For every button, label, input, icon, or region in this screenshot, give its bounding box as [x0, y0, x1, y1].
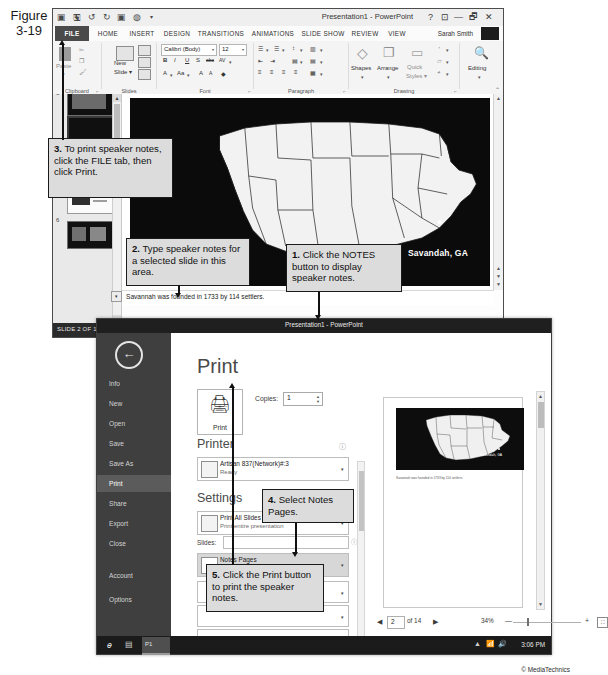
line-spacing-icon[interactable]: ↕	[292, 45, 295, 51]
start-slideshow-icon[interactable]: ▣	[116, 12, 127, 23]
show-hidden-icons-icon[interactable]: ▲	[474, 640, 481, 647]
scroll-up-icon[interactable]: ▲	[113, 94, 121, 102]
preview-zoom-slider-handle[interactable]	[527, 618, 529, 626]
italic-icon[interactable]: I	[174, 57, 176, 63]
thumbnail-slide-6[interactable]	[67, 221, 113, 249]
layout-icon[interactable]	[138, 45, 151, 56]
copies-decrement-icon[interactable]: ▼	[316, 399, 320, 404]
nav-item-info[interactable]: Info	[97, 375, 171, 392]
restore-button[interactable]: 🗗	[466, 11, 479, 23]
nav-item-print[interactable]: Print	[97, 475, 171, 492]
scroll-down-icon[interactable]: ▼	[495, 281, 502, 288]
file-explorer-icon[interactable]: ▤	[125, 640, 133, 649]
bullets-icon[interactable]: ☰	[258, 45, 263, 52]
reset-icon[interactable]	[138, 57, 151, 68]
align-text-icon[interactable]: ▤	[310, 57, 316, 64]
format-painter-icon[interactable]: 🖌	[79, 68, 87, 75]
arrange-icon[interactable]: ❐	[383, 46, 395, 59]
change-case-dropdown-icon[interactable]: ▾	[187, 72, 190, 78]
justify-icon[interactable]: ≡	[294, 69, 298, 75]
text-direction-icon[interactable]: ▤	[292, 57, 298, 64]
nav-item-options[interactable]: Options	[97, 591, 171, 608]
account-name[interactable]: Sarah Smith	[438, 26, 473, 41]
font-name-dropdown-icon[interactable]: ▾	[212, 47, 214, 52]
print-button[interactable]: 🖨 Print	[197, 389, 243, 435]
nav-item-new[interactable]: New	[97, 395, 171, 412]
new-slide-icon[interactable]	[116, 46, 134, 61]
scrollbar-thumb[interactable]	[538, 402, 544, 428]
print-preview-pane[interactable]: Savandah, GA Savannah was founded in 173…	[377, 391, 529, 610]
preview-scrollbar[interactable]: ▲ ▼	[536, 391, 545, 610]
next-page-button[interactable]: ▶	[433, 618, 438, 626]
tab-review[interactable]: REVIEW	[349, 26, 381, 41]
internet-explorer-icon[interactable]: 𝑒	[107, 640, 112, 651]
touch-mode-icon[interactable]: ◍	[131, 12, 142, 23]
undo-icon[interactable]: ↺	[86, 12, 97, 23]
align-center-icon[interactable]: ≡	[270, 69, 274, 75]
minimize-button[interactable]: —	[452, 11, 465, 23]
convert-smartart-icon[interactable]: ▦	[310, 69, 316, 76]
print-layout-dropdown-icon[interactable]: ▾	[341, 562, 344, 568]
strikethrough-icon[interactable]: abc	[206, 57, 214, 63]
increase-indent-icon[interactable]: ⇥	[270, 57, 275, 64]
slides-input[interactable]	[223, 536, 349, 549]
orientation-dropdown-icon[interactable]: ▾	[341, 614, 344, 620]
preview-zoom-slider[interactable]	[513, 622, 581, 623]
nav-item-account[interactable]: Account	[97, 567, 171, 584]
scroll-up-icon[interactable]: ▲	[537, 393, 544, 400]
font-size-box[interactable]: 12 ▾	[219, 44, 247, 56]
tab-insert[interactable]: INSERT	[127, 26, 157, 41]
customize-qat-icon[interactable]: ▾	[146, 12, 157, 23]
nav-item-open[interactable]: Open	[97, 415, 171, 432]
ribbon-display-options-button[interactable]: ⊡	[438, 11, 451, 23]
nav-item-close[interactable]: Close	[97, 535, 171, 552]
decrease-font-size-icon[interactable]: A	[209, 70, 212, 76]
tab-animations[interactable]: ANIMATIONS	[249, 26, 297, 41]
close-button[interactable]: ✕	[482, 11, 495, 23]
section-icon[interactable]	[138, 69, 151, 80]
shape-outline-icon[interactable]: ▱	[437, 57, 442, 64]
scroll-down-icon[interactable]: ▼	[537, 601, 544, 608]
next-slide-icon[interactable]: ▼	[495, 273, 502, 280]
tab-design[interactable]: DESIGN	[161, 26, 193, 41]
copy-icon[interactable]: ❐	[79, 57, 84, 64]
save-icon[interactable]: 🖫	[71, 12, 82, 23]
printer-info-icon[interactable]: ⓘ	[339, 441, 346, 451]
paste-icon[interactable]	[59, 47, 71, 61]
collapse-ribbon-icon[interactable]: ⌃	[495, 86, 500, 93]
character-spacing-dropdown-icon[interactable]: ▾	[229, 59, 232, 65]
back-arrow-icon[interactable]: ←	[115, 341, 143, 369]
settings-scrollbar[interactable]	[357, 461, 365, 646]
quick-styles-icon[interactable]: ▭	[411, 46, 423, 59]
nav-item-save-as[interactable]: Save As	[97, 455, 171, 472]
text-shadow-icon[interactable]: S	[196, 57, 200, 63]
tab-transitions[interactable]: TRANSITIONS	[197, 26, 245, 41]
preview-zoom-out-button[interactable]: —	[505, 617, 512, 624]
decrease-indent-icon[interactable]: ⇤	[258, 57, 263, 64]
font-color-dropdown-icon[interactable]: ▾	[170, 72, 173, 78]
printer-dropdown-icon[interactable]: ▾	[341, 466, 344, 472]
slide-scrollbar[interactable]: ▲ ▲ ▼ ▼	[493, 94, 503, 290]
shapes-icon[interactable]: ◇	[357, 46, 368, 60]
collation-dropdown-icon[interactable]: ▾	[341, 590, 344, 596]
printer-selector[interactable]: Artisan 837(Network)#:3 Ready ▾	[197, 457, 349, 481]
help-button[interactable]: ?	[424, 11, 437, 23]
tab-file[interactable]: FILE	[55, 26, 89, 41]
page-number-input[interactable]: 2	[387, 616, 405, 629]
taskbar-item-powerpoint[interactable]: P1	[142, 637, 170, 655]
tab-home[interactable]: HOME	[93, 26, 123, 41]
redo-icon[interactable]: ↻	[101, 12, 112, 23]
nav-item-share[interactable]: Share	[97, 495, 171, 512]
font-name-box[interactable]: Calibri (Body) ▾	[161, 44, 217, 56]
font-size-dropdown-icon[interactable]: ▾	[242, 47, 244, 52]
avatar[interactable]	[481, 27, 499, 40]
preview-zoom-in-button[interactable]: +	[585, 617, 589, 624]
previous-slide-icon[interactable]: ▲	[495, 265, 502, 272]
scroll-up-icon[interactable]: ▲	[495, 95, 502, 102]
columns-icon[interactable]: ▥	[310, 45, 316, 52]
thumbnail-scrollbar[interactable]: ▲ ▼	[112, 94, 121, 323]
network-icon[interactable]: 📶	[486, 640, 495, 648]
increase-font-size-icon[interactable]: A	[199, 70, 203, 76]
character-spacing-icon[interactable]: AV	[219, 57, 225, 63]
bold-icon[interactable]: B	[163, 57, 167, 63]
